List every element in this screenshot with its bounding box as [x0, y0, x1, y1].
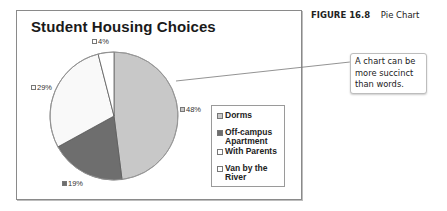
legend-item-off-campus: Off-campus Apartment	[217, 128, 283, 146]
data-label-van: 4%	[92, 37, 109, 46]
legend-item-van: Van by the River	[217, 164, 279, 182]
data-label-dorms: 48%	[180, 105, 201, 114]
figure-label: FIGURE 16.8 Pie Chart	[311, 10, 419, 20]
legend-item-dorms: Dorms	[217, 111, 252, 120]
chart-legend: Dorms Off-campus Apartment With Parents …	[211, 105, 285, 187]
callout-box: A chart can be more succinct than words.	[350, 53, 427, 94]
pie-slice-dorms	[114, 52, 178, 180]
figure-caption: Pie Chart	[381, 10, 420, 20]
van-legend-swatch-icon	[217, 166, 223, 172]
pie-slices	[50, 52, 178, 180]
legend-item-with-parents: With Parents	[217, 147, 277, 156]
with-parents-swatch-icon	[31, 85, 36, 90]
data-label-with-parents: 29%	[31, 83, 52, 92]
with-parents-legend-swatch-icon	[217, 149, 223, 155]
dorms-legend-swatch-icon	[217, 113, 223, 119]
data-label-off-campus: 19%	[62, 179, 83, 188]
van-swatch-icon	[92, 39, 97, 44]
dorms-swatch-icon	[180, 107, 185, 112]
off-campus-swatch-icon	[62, 181, 67, 186]
off-campus-legend-swatch-icon	[217, 130, 223, 136]
figure-number: FIGURE 16.8	[311, 10, 370, 20]
